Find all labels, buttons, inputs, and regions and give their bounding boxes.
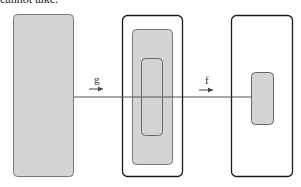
map-label-g: g bbox=[94, 73, 100, 85]
arrow-right-icon bbox=[199, 88, 213, 93]
left-set-box bbox=[14, 15, 74, 177]
map-label-f: f bbox=[205, 74, 209, 86]
composition-diagram: g f bbox=[0, 0, 301, 187]
right-image-box bbox=[252, 73, 274, 125]
arrow-right-icon bbox=[89, 87, 103, 92]
